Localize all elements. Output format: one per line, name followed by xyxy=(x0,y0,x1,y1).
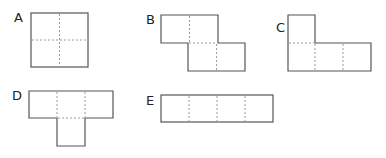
shape-e-label: E xyxy=(146,93,154,108)
shape-a-label: A xyxy=(14,10,23,25)
shape-c-outline xyxy=(288,15,371,71)
shape-c-label: C xyxy=(276,20,285,35)
shape-c: C xyxy=(276,15,371,71)
shape-b-label: B xyxy=(146,12,155,27)
shape-d-label: D xyxy=(12,88,22,103)
shape-d: D xyxy=(12,88,113,146)
shape-a: A xyxy=(14,10,88,67)
nets-diagram: A B C D E xyxy=(0,0,386,158)
shape-b: B xyxy=(146,12,245,71)
shape-e: E xyxy=(146,93,273,122)
